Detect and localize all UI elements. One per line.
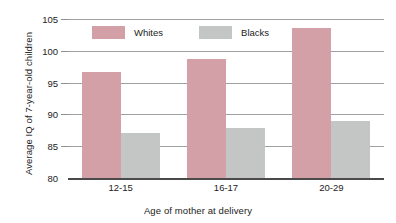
x-tick-label-20-29: 20-29 [319,182,343,193]
legend-item-blacks: Blacks [199,26,269,39]
bar-blacks-20-29 [331,121,370,178]
legend-label-blacks: Blacks [241,27,269,38]
y-tick-mark-90 [61,114,68,115]
y-tick-mark-100 [61,51,68,52]
gridline-100 [68,51,384,52]
chart-legend: Whites Blacks [92,26,269,39]
y-tick-label-100: 100 [42,45,58,56]
legend-item-whites: Whites [92,26,163,39]
legend-swatch-whites-icon [92,26,125,39]
gridline-80 [68,178,384,180]
legend-swatch-blacks-icon [199,26,232,39]
plot-area: 8085909510010512-1516-1720-29 [68,19,384,178]
bar-whites-12-15 [82,72,121,178]
y-tick-mark-95 [61,83,68,84]
x-tick-label-12-15: 12-15 [109,182,133,193]
y-tick-mark-105 [61,19,68,20]
bar-blacks-12-15 [121,133,160,178]
y-axis-title: Average IQ of 7-year-old children [23,14,34,194]
x-axis-title: Age of mother at delivery [0,205,396,216]
bar-blacks-16-17 [226,128,265,178]
y-tick-label-95: 95 [47,77,58,88]
gridline-105 [68,19,384,20]
bar-whites-16-17 [187,59,226,178]
y-tick-label-85: 85 [47,141,58,152]
legend-label-whites: Whites [134,27,163,38]
y-tick-mark-85 [61,146,68,147]
bar-chart: Average IQ of 7-year-old children 808590… [0,0,396,223]
y-tick-label-80: 80 [47,173,58,184]
y-tick-label-105: 105 [42,14,58,25]
x-tick-label-16-17: 16-17 [214,182,238,193]
y-tick-label-90: 90 [47,109,58,120]
bar-whites-20-29 [292,28,331,178]
